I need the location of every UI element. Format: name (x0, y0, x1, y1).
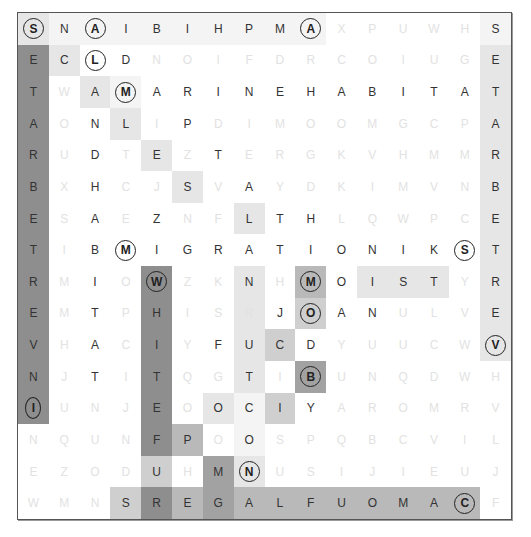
grid-cell[interactable]: L (234, 203, 265, 235)
grid-cell[interactable]: A (234, 234, 265, 266)
grid-cell[interactable]: G (449, 45, 480, 77)
grid-cell[interactable]: P (449, 108, 480, 140)
grid-cell[interactable]: D (265, 45, 296, 77)
grid-cell[interactable]: W (141, 266, 172, 298)
grid-cell[interactable]: O (172, 45, 203, 77)
grid-cell[interactable]: T (265, 203, 296, 235)
grid-cell[interactable]: W (18, 487, 49, 519)
grid-cell[interactable]: E (480, 45, 511, 77)
grid-cell[interactable]: C (419, 329, 450, 361)
grid-cell[interactable]: B (18, 171, 49, 203)
grid-cell[interactable]: R (234, 298, 265, 330)
grid-cell[interactable]: U (234, 329, 265, 361)
grid-cell[interactable]: C (110, 329, 141, 361)
grid-cell[interactable]: U (326, 487, 357, 519)
grid-cell[interactable]: N (141, 45, 172, 77)
grid-cell[interactable]: M (388, 171, 419, 203)
grid-cell[interactable]: U (141, 456, 172, 488)
grid-cell[interactable]: V (203, 171, 234, 203)
grid-cell[interactable]: R (295, 45, 326, 77)
grid-cell[interactable]: H (203, 13, 234, 45)
grid-cell[interactable]: M (449, 140, 480, 172)
grid-cell[interactable]: S (449, 234, 480, 266)
grid-cell[interactable]: E (18, 45, 49, 77)
grid-cell[interactable]: M (49, 266, 80, 298)
grid-cell[interactable]: N (49, 13, 80, 45)
grid-cell[interactable]: T (419, 76, 450, 108)
grid-cell[interactable]: S (18, 13, 49, 45)
grid-cell[interactable]: A (326, 393, 357, 425)
grid-cell[interactable]: I (388, 76, 419, 108)
grid-cell[interactable]: Q (172, 361, 203, 393)
grid-cell[interactable]: J (357, 456, 388, 488)
grid-cell[interactable]: U (419, 45, 450, 77)
grid-cell[interactable]: R (18, 266, 49, 298)
grid-cell[interactable]: A (80, 203, 111, 235)
grid-cell[interactable]: J (110, 393, 141, 425)
grid-cell[interactable]: Y (295, 393, 326, 425)
grid-cell[interactable]: K (326, 171, 357, 203)
grid-cell[interactable]: U (388, 298, 419, 330)
grid-cell[interactable]: G (295, 140, 326, 172)
grid-cell[interactable]: O (326, 234, 357, 266)
grid-cell[interactable]: P (172, 108, 203, 140)
grid-cell[interactable]: U (326, 361, 357, 393)
grid-cell[interactable]: M (295, 266, 326, 298)
grid-cell[interactable]: M (419, 393, 450, 425)
grid-cell[interactable]: W (449, 361, 480, 393)
grid-cell[interactable]: F (141, 424, 172, 456)
grid-cell[interactable]: Q (326, 424, 357, 456)
grid-cell[interactable]: V (449, 298, 480, 330)
grid-cell[interactable]: K (326, 140, 357, 172)
grid-cell[interactable]: V (357, 140, 388, 172)
grid-cell[interactable]: O (357, 45, 388, 77)
grid-cell[interactable]: E (141, 140, 172, 172)
grid-cell[interactable]: M (419, 140, 450, 172)
grid-cell[interactable]: T (141, 361, 172, 393)
grid-cell[interactable]: P (295, 424, 326, 456)
grid-cell[interactable]: I (110, 13, 141, 45)
grid-cell[interactable]: O (80, 456, 111, 488)
grid-cell[interactable]: Z (49, 456, 80, 488)
grid-cell[interactable]: L (480, 424, 511, 456)
grid-cell[interactable]: K (419, 234, 450, 266)
grid-cell[interactable]: H (295, 76, 326, 108)
grid-cell[interactable]: N (234, 76, 265, 108)
grid-cell[interactable]: R (480, 140, 511, 172)
grid-cell[interactable]: V (480, 393, 511, 425)
grid-cell[interactable]: R (480, 266, 511, 298)
grid-cell[interactable]: E (480, 298, 511, 330)
grid-cell[interactable]: N (110, 424, 141, 456)
grid-cell[interactable]: D (80, 140, 111, 172)
grid-cell[interactable]: H (295, 203, 326, 235)
grid-cell[interactable]: R (141, 487, 172, 519)
grid-cell[interactable]: M (388, 487, 419, 519)
grid-cell[interactable]: Q (49, 424, 80, 456)
grid-cell[interactable]: O (295, 298, 326, 330)
grid-cell[interactable]: N (449, 171, 480, 203)
grid-cell[interactable]: H (480, 361, 511, 393)
grid-cell[interactable]: B (480, 171, 511, 203)
grid-cell[interactable]: E (18, 298, 49, 330)
grid-cell[interactable]: M (49, 487, 80, 519)
grid-cell[interactable]: O (110, 266, 141, 298)
grid-cell[interactable]: I (141, 108, 172, 140)
grid-cell[interactable]: I (203, 76, 234, 108)
grid-cell[interactable]: I (295, 234, 326, 266)
grid-cell[interactable]: O (49, 108, 80, 140)
grid-cell[interactable]: F (480, 487, 511, 519)
grid-cell[interactable]: C (449, 203, 480, 235)
grid-cell[interactable]: E (18, 456, 49, 488)
grid-cell[interactable]: G (203, 487, 234, 519)
grid-cell[interactable]: U (449, 456, 480, 488)
grid-cell[interactable]: T (18, 76, 49, 108)
grid-cell[interactable]: T (480, 76, 511, 108)
grid-cell[interactable]: C (49, 45, 80, 77)
grid-cell[interactable]: M (110, 76, 141, 108)
grid-cell[interactable]: A (80, 329, 111, 361)
grid-cell[interactable]: L (110, 108, 141, 140)
grid-cell[interactable]: A (234, 171, 265, 203)
grid-cell[interactable]: B (357, 424, 388, 456)
grid-cell[interactable]: H (172, 456, 203, 488)
grid-cell[interactable]: S (265, 424, 296, 456)
